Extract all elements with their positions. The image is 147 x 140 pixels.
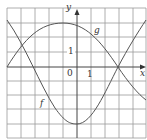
graph-canvas	[0, 0, 147, 140]
y-axis-arrow-icon	[75, 9, 80, 15]
x-axis-label: x	[140, 69, 145, 78]
axes	[7, 12, 143, 138]
g-label: g	[94, 26, 100, 35]
x-tick-label: 1	[87, 70, 93, 79]
f-label: f	[40, 99, 43, 108]
graph: y x 0 1 1 g f	[0, 0, 147, 140]
y-tick-label: 1	[67, 47, 75, 56]
y-axis-label: y	[66, 3, 71, 12]
origin-label: 0	[67, 69, 73, 78]
